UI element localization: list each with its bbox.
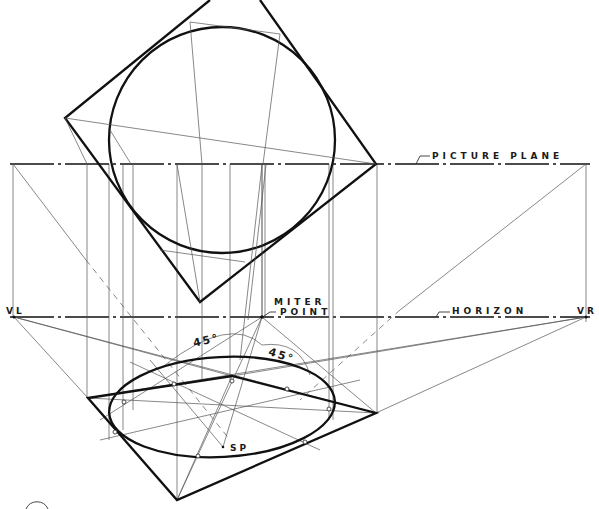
diagonal-right-dashed — [300, 310, 400, 400]
diagonal-left — [13, 164, 86, 260]
miter-leader — [264, 312, 276, 316]
vertical-projectors — [13, 164, 586, 500]
miter-label-line1: MITER — [274, 297, 326, 307]
vr-label: VR — [577, 306, 597, 316]
miter-point-marker — [260, 315, 264, 319]
diagonal-right — [400, 164, 586, 310]
plan-circle — [109, 27, 335, 253]
station-point-label: SP — [230, 443, 249, 453]
picture-plane-label: PICTURE PLANE — [432, 151, 563, 161]
horizon-label: HORIZON — [452, 306, 527, 316]
picture-plane-leader — [416, 156, 430, 164]
detail-circle-fragment — [26, 502, 48, 509]
perspective-drawing — [0, 0, 599, 509]
vl-label: VL — [6, 306, 25, 316]
horizon-leader — [436, 312, 450, 317]
miter-label-line2: POINT — [280, 307, 331, 317]
station-point-marker — [222, 446, 225, 449]
diagonal-left-dashed — [86, 260, 230, 440]
vanishing-lines — [14, 317, 586, 500]
